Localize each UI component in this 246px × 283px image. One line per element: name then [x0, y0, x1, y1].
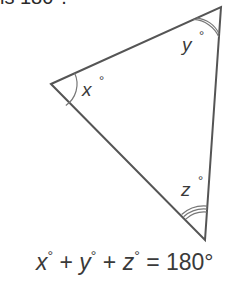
- eq-result: 180°: [166, 249, 214, 275]
- eq-deg-x: °: [48, 248, 54, 264]
- angle-label-y: y: [182, 34, 192, 56]
- eq-deg-y: °: [91, 248, 97, 264]
- triangle: [51, 7, 221, 240]
- eq-equals: =: [146, 249, 159, 275]
- eq-plus-1: +: [60, 249, 73, 275]
- angle-label-z: z: [181, 179, 191, 201]
- degree-symbol-y: °: [199, 28, 204, 43]
- eq-y: y: [79, 249, 91, 275]
- eq-plus-2: +: [103, 249, 116, 275]
- degree-symbol-x: °: [99, 73, 104, 88]
- eq-x: x: [36, 249, 48, 275]
- angle-sum-equation: x° + y° + z° = 180°: [36, 248, 214, 276]
- eq-deg-z: °: [134, 248, 140, 264]
- angle-label-x: x: [82, 79, 92, 101]
- degree-symbol-z: °: [198, 173, 203, 188]
- eq-z: z: [123, 249, 135, 275]
- triangle-diagram: [0, 0, 246, 283]
